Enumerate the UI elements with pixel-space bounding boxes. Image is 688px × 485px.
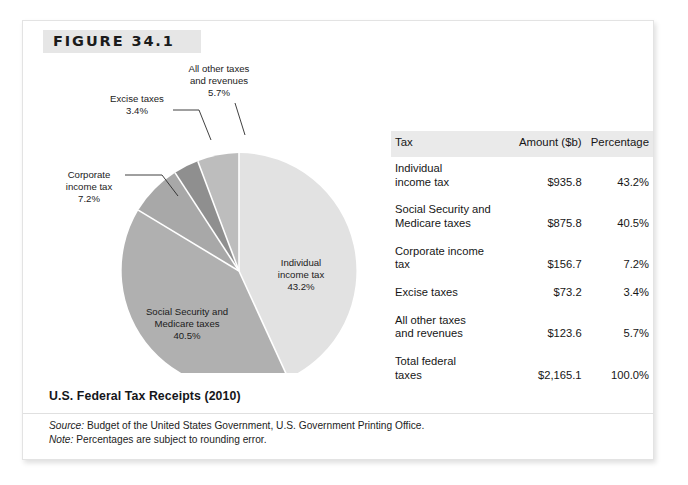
figure-note: Note: Percentages are subject to roundin…: [49, 434, 266, 445]
pie-label-line: income tax: [66, 181, 113, 192]
pie-label-all-other-taxes: All other taxes and revenues 5.7%: [189, 63, 250, 135]
pie-label-line: Medicare taxes: [154, 318, 219, 329]
table-cell-percentage: 40.5%: [586, 196, 653, 237]
tax-name-line2: tax: [395, 258, 410, 270]
tax-name-line1: Corporate income: [395, 245, 484, 257]
pie-label-value: 3.4%: [126, 105, 148, 116]
tax-name-line2: income tax: [395, 176, 449, 188]
table-header-row: Tax Amount ($b) Percentage: [391, 131, 653, 155]
tax-name-line2: and revenues: [395, 327, 463, 339]
table-cell-tax: Social Security and Medicare taxes: [391, 196, 509, 237]
tax-table-container: Tax Amount ($b) Percentage Individual in…: [391, 131, 653, 389]
table-cell-percentage: 43.2%: [586, 155, 653, 196]
table-row: Corporate income tax $156.7 7.2%: [391, 238, 653, 279]
table-cell-percentage: 5.7%: [586, 307, 653, 348]
pie-chart: Individual income tax 43.2% Social Secur…: [39, 63, 379, 373]
pie-label-line: income tax: [278, 269, 325, 280]
svg-text:40.5%: 40.5%: [173, 330, 201, 341]
table-cell-tax: Total federal taxes: [391, 348, 509, 389]
table-header-amount: Amount ($b): [509, 131, 585, 155]
note-text: Percentages are subject to rounding erro…: [76, 434, 266, 445]
tax-table: Tax Amount ($b) Percentage Individual in…: [391, 131, 653, 389]
table-row: Individual income tax $935.8 43.2%: [391, 155, 653, 196]
figure-divider: [23, 413, 653, 414]
pie-label-line: Individual: [281, 257, 322, 268]
table-row: All other taxes and revenues $123.6 5.7%: [391, 307, 653, 348]
pie-label-value: 43.2%: [287, 281, 315, 292]
tax-name-line2: taxes: [395, 369, 422, 381]
table-cell-amount: $123.6: [509, 307, 585, 348]
figure-label: FIGURE 34.1: [53, 33, 175, 49]
table-cell-percentage: 7.2%: [586, 238, 653, 279]
table-cell-percentage: 100.0%: [586, 348, 653, 389]
table-cell-tax: Excise taxes: [391, 279, 509, 307]
table-cell-percentage: 3.4%: [586, 279, 653, 307]
tax-name-line1: All other taxes: [395, 314, 466, 326]
pie-label-value: 5.7%: [208, 87, 230, 98]
table-cell-amount: $156.7: [509, 238, 585, 279]
table-cell-tax: Corporate income tax: [391, 238, 509, 279]
table-header-percentage: Percentage: [586, 131, 653, 155]
tax-name-line1: Total federal: [395, 355, 456, 367]
pie-label-line: Social Security and: [146, 306, 228, 317]
pie-label-value: 7.2%: [78, 193, 100, 204]
figure-caption: U.S. Federal Tax Receipts (2010): [49, 389, 241, 403]
table-header-tax: Tax: [391, 131, 509, 155]
source-prefix: Source:: [49, 420, 84, 431]
table-row-total: Total federal taxes $2,165.1 100.0%: [391, 348, 653, 389]
note-prefix: Note:: [49, 434, 73, 445]
table-cell-amount: $935.8: [509, 155, 585, 196]
tax-name-line1: Excise taxes: [395, 286, 458, 298]
tax-name-line1: Individual: [395, 162, 442, 174]
table-cell-amount: $875.8: [509, 196, 585, 237]
pie-leader-line-all-other: [235, 103, 245, 135]
table-cell-amount: $2,165.1: [509, 348, 585, 389]
tax-name-line1: Social Security and: [395, 203, 491, 215]
pie-leader-line-excise: [173, 110, 211, 140]
pie-label-excise-taxes: Excise taxes 3.4%: [110, 93, 211, 140]
pie-label-line: Excise taxes: [110, 93, 164, 104]
table-row: Excise taxes $73.2 3.4%: [391, 279, 653, 307]
table-cell-tax: All other taxes and revenues: [391, 307, 509, 348]
figure-source: Source: Budget of the United States Gove…: [49, 420, 424, 431]
table-row: Social Security and Medicare taxes $875.…: [391, 196, 653, 237]
table-cell-tax: Individual income tax: [391, 155, 509, 196]
tax-name-line2: Medicare taxes: [395, 217, 471, 229]
pie-label-line: Corporate: [68, 169, 111, 180]
pie-label-line: All other taxes: [189, 63, 250, 74]
pie-label-line: and revenues: [190, 75, 248, 86]
figure-card: FIGURE 34.1 Individu: [22, 20, 654, 460]
table-cell-amount: $73.2: [509, 279, 585, 307]
source-text: Budget of the United States Government, …: [87, 420, 424, 431]
